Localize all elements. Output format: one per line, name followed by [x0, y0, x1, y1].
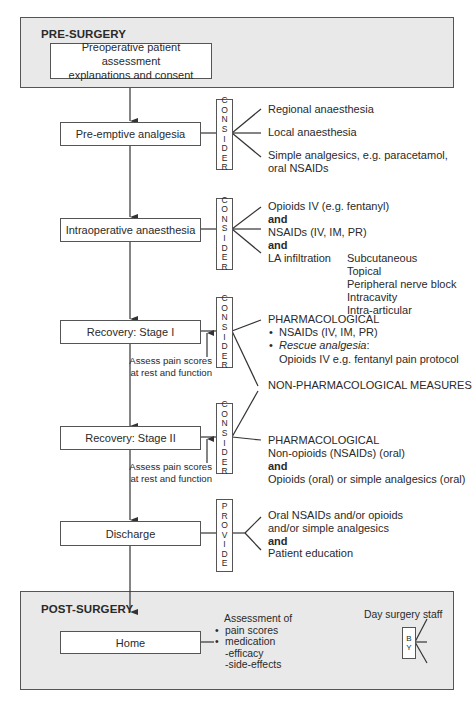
stage-intraoperative-anaesthesia: Intraoperative anaesthesia	[60, 218, 201, 242]
assessment-sub-item: -efficacy	[214, 648, 292, 660]
and-connector: and	[268, 239, 288, 253]
route-item: Peripheral nerve block	[347, 278, 456, 291]
non-opioids-line: Non-opioids (NSAIDs) (oral)	[268, 447, 465, 460]
provision-line: and/or simple analgesics	[268, 522, 403, 535]
assessment-bullet: pain scores	[214, 625, 292, 637]
route-item: Intracavity	[347, 291, 456, 304]
and-connector: and	[268, 460, 465, 473]
home-label: Home	[116, 636, 145, 650]
bullet-rescue-analgesia: Rescue analgesia:	[268, 339, 459, 352]
post-surgery-assessment: Assessment of pain scores medication -ef…	[214, 613, 292, 671]
la-infiltration-routes: Subcutaneous Topical Peripheral nerve bl…	[347, 252, 456, 317]
consider-box: C O N S I D E R	[216, 297, 233, 368]
bullet-nsaids: NSAIDs (IV, IM, PR)	[268, 326, 459, 339]
stage-label: Intraoperative anaesthesia	[66, 223, 196, 237]
route-item: Topical	[347, 265, 456, 278]
stage-label: Recovery: Stage I	[87, 325, 174, 339]
consider-letter: R	[221, 263, 227, 273]
rescue-detail: Opioids IV e.g. fentanyl pain protocol	[268, 353, 459, 366]
provider-line: Day surgery staff	[364, 609, 442, 620]
stage-label: Discharge	[106, 527, 156, 541]
consider-box: C O N S I D E R	[216, 403, 233, 474]
option-la-infiltration: LA infiltration	[268, 252, 331, 266]
stage-recovery-stage-2: Recovery: Stage II	[60, 426, 201, 450]
by-letter: B	[406, 634, 411, 643]
route-item: Subcutaneous	[347, 252, 456, 265]
assess-note-line: at rest and function	[118, 473, 212, 485]
stage-recovery-stage-1: Recovery: Stage I	[60, 320, 201, 344]
discharge-provisions: Oral NSAIDs and/or opioids and/or simple…	[268, 509, 403, 560]
assess-pain-note: Assess pain scores at rest and function	[118, 461, 212, 485]
by-box: B Y	[402, 627, 416, 659]
consider-letter: R	[221, 467, 227, 477]
assess-note-line: Assess pain scores	[118, 355, 212, 367]
provision-line: Oral NSAIDs and/or opioids	[268, 509, 403, 522]
assessment-sub-item: -side-effects	[214, 659, 292, 671]
provision-line: Patient education	[268, 547, 403, 560]
assess-note-line: at rest and function	[118, 367, 212, 379]
assess-note-line: Assess pain scores	[118, 461, 212, 473]
home-box: Home	[60, 631, 201, 654]
consider-letter: R	[221, 361, 227, 371]
option-opioids-iv: Opioids IV (e.g. fentanyl)	[268, 200, 389, 214]
pharmacological-heading: PHARMACOLOGICAL	[268, 434, 465, 447]
assessment-heading: Assessment of	[214, 613, 292, 625]
consider-letter: R	[221, 163, 227, 173]
stage-label: Recovery: Stage II	[85, 431, 176, 445]
option-regional-anaesthesia: Regional anaesthesia	[268, 103, 374, 117]
option-nsaids: NSAIDs (IV, IM, PR)	[268, 226, 367, 240]
stage-label: Pre-emptive analgesia	[76, 127, 185, 141]
assess-pain-note: Assess pain scores at rest and function	[118, 355, 212, 379]
assessment-bullet: medication	[214, 636, 292, 648]
non-pharmacological-measures: NON-PHARMACOLOGICAL MEASURES	[268, 379, 472, 393]
option-local-anaesthesia: Local anaesthesia	[268, 126, 357, 140]
option-oral-nsaids: oral NSAIDs	[268, 162, 329, 176]
and-connector: and	[268, 535, 403, 548]
pharmacological-recovery-2: PHARMACOLOGICAL Non-opioids (NSAIDs) (or…	[268, 434, 465, 486]
opioids-oral-line: Opioids (oral) or simple analgesics (ora…	[268, 473, 465, 486]
and-connector: and	[268, 213, 288, 227]
consider-box: C O N S I D E R	[216, 99, 233, 170]
stage-discharge: Discharge	[60, 521, 201, 546]
pharmacological-recovery-1: PHARMACOLOGICAL NSAIDs (IV, IM, PR) Resc…	[268, 313, 459, 366]
pharmacological-heading: PHARMACOLOGICAL	[268, 313, 459, 326]
by-letter: Y	[406, 643, 411, 652]
consider-box: C O N S I D E R	[216, 198, 233, 270]
stage-preemptive-analgesia: Pre-emptive analgesia	[60, 122, 201, 146]
option-simple-analgesics: Simple analgesics, e.g. paracetamol,	[268, 149, 448, 163]
provide-letter: E	[222, 559, 228, 569]
provide-box: P R O V I D E	[216, 499, 233, 572]
